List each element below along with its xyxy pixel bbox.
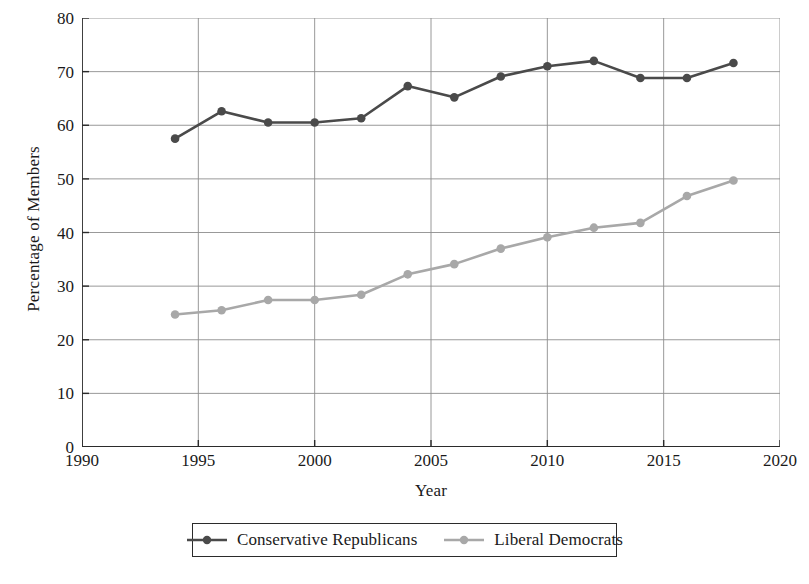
y-tick-label: 40 bbox=[10, 224, 74, 241]
data-point bbox=[264, 296, 273, 305]
data-point bbox=[357, 290, 366, 299]
data-point bbox=[497, 244, 506, 253]
data-point bbox=[590, 57, 599, 66]
series-conservative-republicans bbox=[171, 57, 738, 143]
data-point bbox=[590, 223, 599, 232]
data-point bbox=[636, 219, 645, 228]
legend-line-marker-icon bbox=[186, 533, 228, 547]
x-tick-label: 2010 bbox=[502, 452, 592, 469]
data-point bbox=[171, 134, 180, 143]
legend-line-marker-icon bbox=[443, 533, 485, 547]
data-point bbox=[217, 107, 226, 116]
y-tick-label: 20 bbox=[10, 331, 74, 348]
legend-item-liberal-democrats[interactable]: Liberal Democrats bbox=[443, 530, 623, 550]
legend-label-conservative-republicans: Conservative Republicans bbox=[237, 530, 417, 550]
y-tick-label: 60 bbox=[10, 117, 74, 134]
data-point bbox=[403, 82, 412, 91]
y-tick-label: 30 bbox=[10, 278, 74, 295]
x-tick-label: 2020 bbox=[735, 452, 809, 469]
data-point bbox=[729, 59, 738, 68]
data-point bbox=[683, 192, 692, 201]
data-point bbox=[450, 260, 459, 269]
line-chart-figure: Percentage of Members 80706050403020100 … bbox=[0, 0, 809, 584]
plot-svg bbox=[82, 18, 780, 447]
x-tick-label: 2015 bbox=[619, 452, 709, 469]
legend-label-liberal-democrats: Liberal Democrats bbox=[494, 530, 623, 550]
data-point bbox=[729, 176, 738, 185]
data-point bbox=[171, 310, 180, 319]
data-point bbox=[310, 296, 319, 305]
series-liberal-democrats bbox=[171, 176, 738, 319]
legend-item-conservative-republicans[interactable]: Conservative Republicans bbox=[186, 530, 417, 550]
y-tick-label: 70 bbox=[10, 63, 74, 80]
x-tick-label: 1995 bbox=[153, 452, 243, 469]
data-point bbox=[497, 72, 506, 81]
x-axis-tick-labels: 1990199520002005201020152020 bbox=[82, 452, 780, 476]
series-line bbox=[175, 180, 733, 314]
y-tick-label: 80 bbox=[10, 10, 74, 27]
chart-legend: Conservative Republicans Liberal Democra… bbox=[192, 523, 617, 557]
plot-area bbox=[82, 18, 780, 447]
data-point bbox=[543, 62, 552, 71]
y-tick-label: 10 bbox=[10, 385, 74, 402]
data-point bbox=[264, 118, 273, 127]
x-tick-label: 1990 bbox=[37, 452, 127, 469]
data-point bbox=[217, 306, 226, 315]
x-axis-title: Year bbox=[82, 481, 780, 501]
y-tick-label: 50 bbox=[10, 170, 74, 187]
data-point bbox=[636, 74, 645, 83]
data-point bbox=[543, 233, 552, 242]
x-tick-label: 2000 bbox=[270, 452, 360, 469]
y-axis-tick-labels: 80706050403020100 bbox=[0, 18, 74, 447]
data-point bbox=[310, 118, 319, 127]
data-point bbox=[357, 114, 366, 123]
data-point bbox=[683, 74, 692, 83]
data-point bbox=[450, 93, 459, 102]
data-point bbox=[403, 270, 412, 279]
x-tick-label: 2005 bbox=[386, 452, 476, 469]
